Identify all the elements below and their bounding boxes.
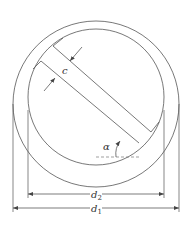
c-arrow-upper: [70, 47, 82, 61]
c-arrow-lower: [44, 78, 55, 91]
bar-end-left: [33, 61, 41, 69]
bar-end-top: [53, 38, 63, 46]
bar-edge-upper: [53, 46, 151, 132]
label-alpha: α: [103, 141, 110, 152]
ring-diagram: c α d2 d1: [0, 0, 191, 226]
label-d1: d1: [91, 203, 102, 216]
bar-edge-lower: [41, 61, 139, 143]
label-d2: d2: [91, 189, 102, 202]
angle-arc: [116, 141, 120, 157]
label-c: c: [62, 65, 68, 76]
outer-circle: [13, 21, 179, 187]
inner-circle: [28, 29, 164, 165]
